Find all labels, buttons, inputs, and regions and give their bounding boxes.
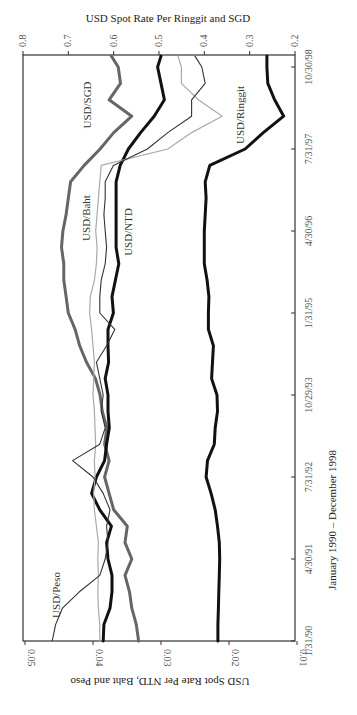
date-tick-label: 7/31/97: [303, 134, 314, 165]
date-tick-label: 10/29/93: [303, 377, 314, 413]
left-axis-tick-label: 0.03: [162, 649, 173, 667]
date-tick-label: 7/31/92: [303, 462, 314, 493]
date-tick-label: 1/31/95: [303, 298, 314, 329]
date-tick-label: 1/31/90: [303, 626, 314, 657]
series-lines: [52, 56, 284, 641]
right-axis-tick-label: 0.3: [244, 35, 255, 48]
plot-frame: [23, 55, 295, 641]
right-axis-title: USD Spot Rate Per Ringgit and SGD: [86, 12, 250, 24]
right-axis-tick-label: 0.7: [62, 35, 73, 48]
right-axis-tick-label: 0.6: [108, 35, 119, 48]
left-axis-tick-label: 0.04: [94, 649, 105, 667]
series-label-ringgit: USD/Ringgit: [234, 86, 246, 144]
series-label-ntd: USD/NTD: [122, 208, 134, 256]
date-tick-label: 10/30/98: [303, 49, 314, 85]
date-tick-label: 4/30/96: [303, 216, 314, 247]
x-axis-title: January 1990 – December 1998: [326, 450, 338, 590]
left-axis-tick-label: 0.05: [26, 649, 37, 667]
right-axis-tick-label: 0.8: [17, 35, 28, 48]
left-axis-tick-label: 0.02: [230, 649, 241, 667]
series-label-baht: USD/Baht: [80, 195, 92, 241]
right-axis-ticks: 0.80.70.60.50.40.30.2: [17, 35, 300, 56]
series-line-usd-sgd: [62, 56, 139, 641]
right-axis-tick-label: 0.2: [289, 35, 300, 48]
date-tick-label: 4/30/91: [303, 544, 314, 575]
right-axis-tick-label: 0.5: [153, 35, 164, 48]
right-axis-tick-label: 0.4: [198, 35, 209, 48]
series-label-peso: USD/Peso: [50, 572, 62, 618]
series-label-sgd: USD/SGD: [81, 81, 93, 128]
left-axis-ticks: 0.050.040.030.020.01: [25, 641, 309, 667]
exchange-rate-chart: 0.80.70.60.50.40.30.2 0.050.040.030.020.…: [0, 0, 357, 715]
left-axis-title: USD Spot Rate Per NTD, Baht and Peso: [70, 676, 250, 688]
